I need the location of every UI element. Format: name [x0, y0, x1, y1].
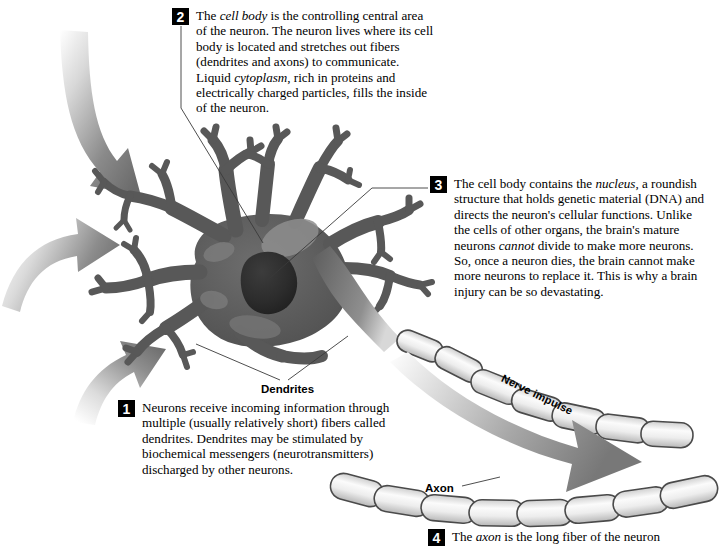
- callout-2: 2 The cell body is the controlling centr…: [172, 8, 434, 116]
- callout-text-3: The cell body contains the nucleus, a ro…: [454, 176, 710, 299]
- label-axon: Axon: [425, 482, 454, 494]
- callout-text-1: Neurons receive incoming information thr…: [142, 400, 408, 477]
- leader-line-axon: [462, 477, 500, 486]
- incoming-arrow-middle: [2, 218, 120, 312]
- incoming-arrow-top: [60, 30, 141, 196]
- callout-text-2: The cell body is the controlling central…: [196, 8, 434, 116]
- figure-canvas: 2 The cell body is the controlling centr…: [0, 0, 720, 556]
- callout-3: 3 The cell body contains the nucleus, a …: [430, 176, 710, 299]
- label-dendrites: Dendrites: [261, 383, 314, 395]
- callout-number-1: 1: [118, 400, 135, 417]
- callout-number-3: 3: [430, 176, 447, 193]
- incoming-signal-arrows: [2, 30, 166, 425]
- callout-text-4: The axon is the long fiber of the neuron: [452, 529, 660, 544]
- callout-number-4: 4: [428, 529, 445, 546]
- callout-number-2: 2: [172, 8, 189, 25]
- callout-4: 4 The axon is the long fiber of the neur…: [428, 529, 713, 546]
- callout-1: 1 Neurons receive incoming information t…: [118, 400, 408, 477]
- neuron-cell: [92, 127, 432, 367]
